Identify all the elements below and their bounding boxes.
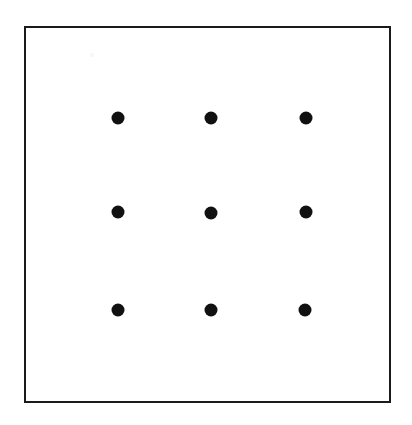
dot-r2c1[interactable] bbox=[112, 206, 125, 219]
dot-r2c2[interactable] bbox=[205, 207, 218, 220]
figure-canvas: Nine Dots Puzzle A square outline contai… bbox=[0, 0, 412, 425]
dot-r1c1[interactable] bbox=[112, 112, 125, 125]
nine-dots-figure: Nine Dots Puzzle A square outline contai… bbox=[0, 0, 412, 425]
dot-r3c2[interactable] bbox=[205, 304, 218, 317]
dot-r1c2[interactable] bbox=[205, 112, 218, 125]
dot-r3c3[interactable] bbox=[299, 304, 312, 317]
dot-r3c1[interactable] bbox=[112, 304, 125, 317]
scan-speck-artifact bbox=[90, 53, 94, 57]
dot-r2c3[interactable] bbox=[300, 206, 313, 219]
dot-r1c3[interactable] bbox=[300, 112, 313, 125]
